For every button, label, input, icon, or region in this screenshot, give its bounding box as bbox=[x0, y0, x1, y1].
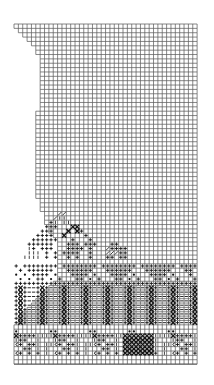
stitch-symbol bbox=[67, 343, 70, 346]
stitch-symbol bbox=[67, 251, 70, 254]
stitch-symbol bbox=[67, 308, 70, 311]
stitch-symbol bbox=[168, 278, 170, 280]
stitch-symbol bbox=[133, 274, 135, 276]
stitch-symbol bbox=[145, 308, 148, 311]
stitch-symbol bbox=[173, 352, 175, 355]
stitch-symbol bbox=[75, 229, 79, 233]
stitch-symbol bbox=[18, 299, 22, 303]
stitch-symbol bbox=[49, 243, 52, 246]
stitch-symbol bbox=[171, 321, 175, 325]
stitch-symbol bbox=[89, 317, 92, 320]
stitch-symbol bbox=[67, 282, 70, 285]
stitch-symbol bbox=[189, 295, 192, 298]
stitch-symbol bbox=[127, 307, 131, 311]
stitch-symbol bbox=[67, 264, 70, 267]
stitch-symbol bbox=[176, 308, 179, 311]
stitch-symbol bbox=[50, 330, 52, 332]
stitch-symbol bbox=[127, 334, 131, 338]
stitch-symbol bbox=[84, 286, 88, 290]
stitch-symbol bbox=[119, 251, 122, 254]
stitch-symbol bbox=[193, 312, 197, 316]
stitch-symbol bbox=[102, 304, 105, 307]
stitch-symbol bbox=[127, 321, 131, 325]
stitch-symbol bbox=[127, 299, 131, 303]
stitch-symbol bbox=[176, 312, 179, 315]
stitch-symbol bbox=[176, 352, 179, 355]
stitch-symbol bbox=[132, 299, 135, 302]
stitch-symbol bbox=[193, 294, 197, 298]
stitch-symbol bbox=[15, 295, 18, 298]
stitch-symbol bbox=[140, 342, 144, 346]
stitch-symbol bbox=[45, 299, 48, 302]
stitch-symbol bbox=[189, 273, 192, 276]
stitch-symbol bbox=[36, 234, 39, 237]
stitch-symbol bbox=[124, 247, 127, 250]
stitch-symbol bbox=[106, 299, 110, 303]
stitch-symbol bbox=[71, 343, 74, 346]
stitch-symbol bbox=[136, 334, 140, 338]
stitch-symbol bbox=[102, 317, 105, 320]
stitch-symbol bbox=[189, 334, 192, 337]
stitch-symbol bbox=[123, 342, 127, 346]
stitch-symbol bbox=[62, 212, 65, 215]
stitch-symbol bbox=[94, 352, 96, 355]
stitch-symbol bbox=[71, 269, 74, 272]
stitch-symbol bbox=[132, 290, 135, 293]
stitch-symbol bbox=[76, 243, 79, 246]
stitch-symbol bbox=[193, 264, 196, 267]
stitch-symbol bbox=[154, 277, 157, 280]
stitch-symbol bbox=[132, 304, 135, 307]
stitch-symbol bbox=[50, 278, 52, 280]
stitch-symbol bbox=[102, 338, 105, 341]
stitch-symbol bbox=[41, 243, 44, 246]
stitch-symbol bbox=[127, 303, 131, 307]
stitch-symbol bbox=[53, 334, 57, 338]
stitch-symbol bbox=[45, 251, 48, 254]
stitch-symbol bbox=[124, 273, 127, 276]
stitch-symbol bbox=[150, 264, 153, 267]
stitch-symbol bbox=[124, 312, 127, 315]
stitch-symbol bbox=[66, 229, 70, 233]
stitch-symbol bbox=[62, 307, 66, 311]
stitch-symbol bbox=[158, 269, 161, 272]
stitch-symbol bbox=[149, 316, 153, 320]
stitch-symbol bbox=[154, 264, 157, 267]
stitch-symbol bbox=[167, 317, 170, 320]
stitch-symbol bbox=[49, 221, 52, 224]
stitch-symbol bbox=[137, 277, 140, 280]
stitch-symbol bbox=[62, 338, 65, 341]
stitch-symbol bbox=[41, 273, 44, 276]
stitch-symbol bbox=[80, 264, 83, 267]
stitch-symbol bbox=[154, 269, 157, 272]
stitch-symbol bbox=[28, 343, 31, 346]
stitch-symbol bbox=[41, 264, 44, 267]
stitch-symbol bbox=[189, 286, 192, 289]
stitch-symbol bbox=[171, 307, 175, 311]
stitch-symbol bbox=[110, 308, 113, 311]
stitch-symbol bbox=[28, 352, 31, 355]
stitch-symbol bbox=[167, 290, 170, 293]
stitch-symbol bbox=[163, 269, 166, 272]
stitch-symbol bbox=[193, 286, 197, 290]
stitch-symbol bbox=[167, 304, 170, 307]
stitch-symbol bbox=[97, 343, 100, 346]
stitch-symbol bbox=[145, 351, 149, 355]
stitch-symbol bbox=[133, 330, 135, 332]
stitch-symbol bbox=[132, 334, 136, 338]
stitch-symbol bbox=[49, 238, 52, 241]
stitch-symbol bbox=[62, 294, 66, 298]
stitch-symbol bbox=[89, 256, 92, 259]
stitch-symbol bbox=[150, 273, 153, 276]
stitch-symbol bbox=[32, 273, 35, 276]
stitch-symbol bbox=[71, 334, 74, 337]
stitch-symbol bbox=[110, 304, 113, 307]
stitch-symbol bbox=[180, 338, 183, 341]
stitch-symbol bbox=[49, 282, 52, 285]
stitch-symbol bbox=[89, 251, 92, 254]
stitch-symbol bbox=[19, 352, 22, 355]
stitch-symbol bbox=[124, 256, 127, 259]
stitch-symbol bbox=[141, 282, 144, 285]
stitch-symbol bbox=[124, 295, 127, 298]
stitch-symbol bbox=[132, 347, 136, 351]
stitch-symbol bbox=[23, 317, 26, 320]
